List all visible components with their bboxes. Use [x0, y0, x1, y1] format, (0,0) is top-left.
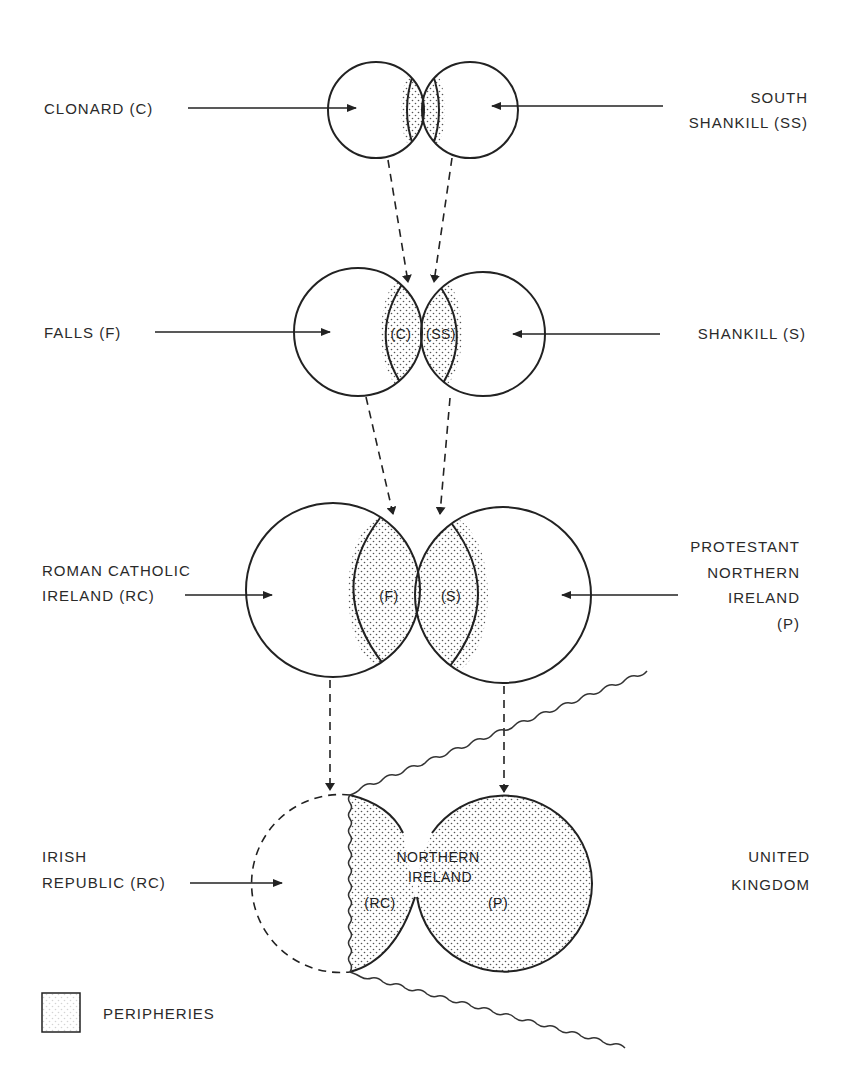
- label-clonard: CLONARD (C): [44, 100, 153, 117]
- legend: PERIPHERIES: [42, 993, 215, 1032]
- overlap-label-c: (C): [391, 326, 412, 342]
- connector-clonard-to-c: [388, 160, 408, 282]
- label-republic-rc: REPUBLIC (RC): [42, 874, 166, 891]
- label-united: UNITED: [748, 848, 810, 865]
- label-kingdom: KINGDOM: [731, 876, 810, 893]
- label-ireland: IRELAND: [728, 589, 800, 606]
- overlap-label-ss: (SS): [426, 326, 456, 342]
- label-shankill-ss: SHANKILL (SS): [689, 114, 808, 131]
- border-wavy-top: [350, 671, 647, 795]
- connector-falls-to-f: [366, 397, 393, 514]
- level-3-rc-protestant: (F) (S) ROMAN CATHOLIC IRELAND (RC) PROT…: [42, 503, 800, 683]
- periphery-rc-northern-ireland: [350, 795, 415, 972]
- label-northern-ireland-1: NORTHERN: [396, 849, 479, 865]
- label-irish: IRISH: [42, 848, 87, 865]
- label-protestant: PROTESTANT: [690, 538, 800, 555]
- label-south: SOUTH: [751, 89, 809, 106]
- periphery-diagram: CLONARD (C) SOUTH SHANKILL (SS) (C) (SS)…: [0, 0, 853, 1083]
- label-northern-ireland-2: IRELAND: [408, 869, 472, 885]
- legend-swatch-peripheries: [42, 993, 80, 1032]
- label-roman-catholic: ROMAN CATHOLIC: [42, 562, 191, 579]
- label-northern: NORTHERN: [707, 564, 800, 581]
- overlap-label-s: (S): [441, 588, 461, 604]
- level-4-irish-republic-uk: NORTHERN IRELAND (RC) (P) IRISH REPUBLIC…: [42, 671, 810, 1048]
- overlap-label-rc: (RC): [364, 895, 396, 911]
- label-shankill: SHANKILL (S): [698, 325, 806, 342]
- connector-ss-to-ss: [434, 158, 452, 282]
- legend-label-peripheries: PERIPHERIES: [103, 1005, 215, 1022]
- border-wavy-bottom: [350, 972, 625, 1048]
- label-falls: FALLS (F): [44, 324, 121, 341]
- level-2-falls-shankill: (C) (SS) FALLS (F) SHANKILL (S): [44, 268, 806, 396]
- connector-shankill-to-s: [440, 398, 450, 514]
- label-ireland-rc: IRELAND (RC): [42, 587, 155, 604]
- overlap-label-p: (P): [488, 895, 508, 911]
- overlap-label-f: (F): [379, 588, 398, 604]
- label-p: (P): [777, 615, 800, 632]
- level-1-clonard-south-shankill: CLONARD (C) SOUTH SHANKILL (SS): [44, 62, 808, 158]
